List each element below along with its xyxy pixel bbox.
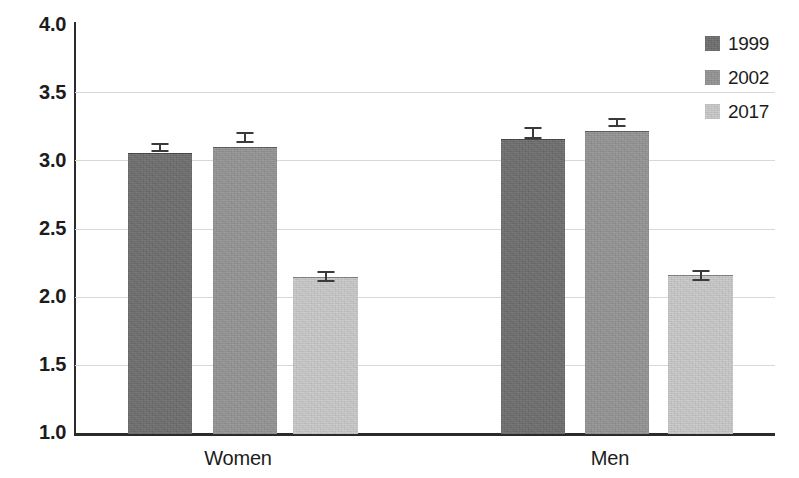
legend: 1999 2002 2017 [705,26,797,128]
legend-swatch-texture [705,36,720,51]
error-bar-cap-top [609,118,626,120]
legend-item-1999: 1999 [705,26,797,60]
error-bar-cap-bottom [692,279,709,281]
error-bar-women-2002 [213,132,277,143]
bar-men-2017 [668,275,733,434]
bar-women-2017 [293,277,358,434]
error-bar-men-2002 [585,118,649,126]
error-bar-cap-bottom [317,280,334,282]
error-bar-men-2017 [668,270,733,281]
error-bar-cap-top [237,132,254,134]
legend-label: 2002 [728,68,769,87]
legend-swatch-texture [705,70,720,85]
error-bar-women-1999 [128,143,192,152]
bar-texture [668,275,733,434]
bar-texture [128,153,192,435]
y-tick-label: 3.5 [6,82,66,102]
y-tick-label: 2.5 [6,218,66,238]
error-bar-women-2017 [293,271,358,282]
y-tick-label: 4.0 [6,14,66,34]
y-tick-label: 1.5 [6,354,66,374]
legend-swatch-icon [705,104,720,119]
error-bar-cap-top [152,143,169,145]
error-bar-cap-bottom [609,125,626,127]
bar-texture [293,277,358,434]
x-axis-group-label-men: Men [530,447,690,469]
x-axis-group-label-women: Women [158,447,318,469]
bar-men-1999 [501,139,565,434]
y-tick-label: 2.0 [6,286,66,306]
legend-swatch-texture [705,104,720,119]
legend-label: 2017 [728,102,769,121]
bar-texture [501,139,565,434]
bar-top-edge [213,147,277,148]
error-bar-cap-top [692,270,709,272]
y-axis-tick-labels: 4.0 3.5 3.0 2.5 2.0 1.5 1.0 [0,0,66,478]
bar-women-2002 [213,147,277,434]
y-tick-label: 1.0 [6,422,66,442]
legend-item-2017: 2017 [705,94,797,128]
bar-men-2002 [585,131,649,435]
legend-swatch-icon [705,36,720,51]
bar-texture [213,147,277,434]
bar-chart: 4.0 3.5 3.0 2.5 2.0 1.5 1.0 [0,0,799,478]
bar-texture [585,131,649,435]
error-bar-cap-bottom [237,141,254,143]
error-bar-cap-top [317,271,334,273]
legend-swatch-icon [705,70,720,85]
error-bar-cap-bottom [525,137,542,139]
gridline-3-5 [75,92,775,93]
legend-item-2002: 2002 [705,60,797,94]
plot-area [75,24,775,434]
error-bar-cap-bottom [152,150,169,152]
legend-label: 1999 [728,34,769,53]
bar-women-1999 [128,153,192,435]
bar-top-edge [501,139,565,140]
error-bar-cap-top [525,127,542,129]
bar-top-edge [128,153,192,154]
error-bar-men-1999 [501,127,565,139]
bar-top-edge [585,131,649,132]
y-tick-label: 3.0 [6,150,66,170]
